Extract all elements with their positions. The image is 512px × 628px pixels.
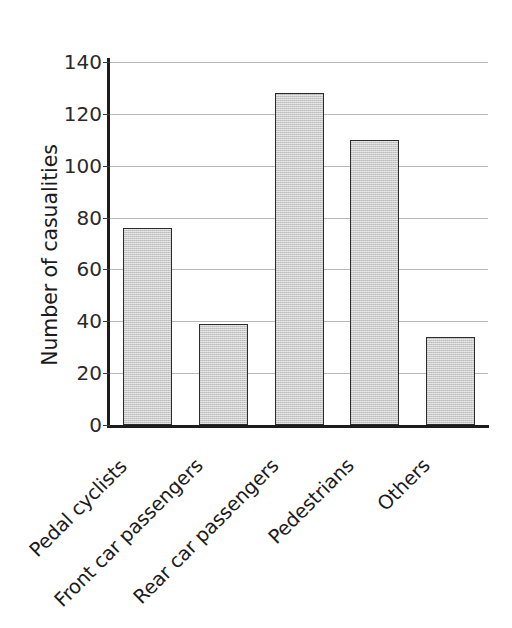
y-tick-mark [103,373,110,374]
x-axis-tick-labels: Pedal cyclistsFront car passengersRear c… [0,0,512,628]
y-tick-mark [103,166,110,167]
x-tick-label: Rear car passengers [129,454,283,608]
x-tick-label: Others [373,454,435,516]
y-tick-mark [103,269,110,270]
y-tick-mark [103,114,110,115]
y-tick-mark [103,425,110,426]
y-tick-mark [103,321,110,322]
y-tick-mark [103,218,110,219]
x-tick-label: Front car passengers [50,454,208,612]
y-tick-mark [103,62,110,63]
bar-chart-figure: Number of casualities 020406080100120140… [0,0,512,628]
